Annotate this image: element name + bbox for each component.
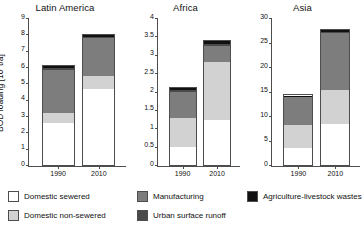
legend-column: Domestic seweredDomestic non-sewered	[8, 188, 106, 226]
y-axis-tick-label: 6	[21, 61, 25, 68]
y-axis-tick-label: 5	[264, 135, 268, 142]
y-axis-tick-label: 5	[21, 77, 25, 84]
stacked-bar[interactable]	[283, 94, 313, 166]
bar-segment-domestic-non-sewered	[43, 113, 74, 123]
panel-container: Latin America012345678919902010Africa00.…	[0, 0, 364, 186]
y-axis-tick-label: 25	[260, 37, 268, 44]
y-axis-tick-label: 2	[150, 86, 154, 93]
stacked-bar[interactable]	[320, 29, 350, 166]
panel-title: Latin America	[0, 2, 130, 13]
y-axis-tick-label: 0.5	[144, 141, 154, 148]
x-axis-label: 2010	[209, 170, 225, 177]
legend-swatch-manufacturing	[137, 191, 148, 202]
legend-item[interactable]: Manufacturing	[137, 188, 226, 205]
x-axis-label: 2010	[91, 170, 107, 177]
y-axis-tick-label: 2.5	[144, 67, 154, 74]
x-axis-tick	[217, 166, 218, 169]
panel-title: Africa	[127, 2, 244, 13]
bar-group	[272, 19, 360, 166]
plot-area: 05101520253019902010	[271, 19, 360, 167]
bar-segment-domestic-non-sewered	[83, 76, 114, 89]
y-axis-tick-label: 0	[150, 159, 154, 166]
bar-segment-manufacturing	[321, 33, 349, 90]
y-axis-tick-label: 1	[150, 122, 154, 129]
x-axis-tick	[99, 166, 100, 169]
y-axis-tick-label: 8	[21, 28, 25, 35]
bar-group	[158, 19, 240, 166]
panel-asia: Asia05101520253019902010	[241, 0, 364, 186]
bar-segment-domestic-non-sewered	[284, 125, 312, 149]
bar-segment-domestic-sewered	[170, 147, 196, 165]
x-axis-label: 1990	[50, 170, 66, 177]
y-axis-tick-label: 1	[21, 143, 25, 150]
bar-segment-domestic-non-sewered	[321, 90, 349, 124]
x-axis-tick	[183, 166, 184, 169]
bar-segment-domestic-non-sewered	[204, 62, 230, 120]
bod-loading-figure: BOD loading [106t/a] Latin America012345…	[0, 0, 364, 226]
y-axis-tick-label: 3.5	[144, 30, 154, 37]
bar-segment-domestic-sewered	[204, 120, 230, 165]
stacked-bar[interactable]	[203, 40, 231, 166]
y-axis-tick-label: 0	[264, 159, 268, 166]
bar-segment-domestic-non-sewered	[170, 118, 196, 147]
legend-label: Manufacturing	[153, 192, 204, 201]
y-axis-tick-label: 3	[21, 110, 25, 117]
y-axis-tick-label: 0	[21, 159, 25, 166]
stacked-bar[interactable]	[169, 87, 197, 166]
legend-label: Domestic non-sewered	[24, 211, 106, 220]
legend-label: Domestic sewered	[24, 192, 90, 201]
y-axis-tick-label: 10	[260, 110, 268, 117]
bar-segment-manufacturing	[284, 97, 312, 124]
x-axis-label: 1990	[175, 170, 191, 177]
x-axis-tick	[335, 166, 336, 169]
y-axis-tick-label: 3	[150, 49, 154, 56]
bar-segment-manufacturing	[204, 46, 230, 62]
x-axis-label: 2010	[328, 170, 344, 177]
legend-label: Urban surface runoff	[153, 211, 226, 220]
x-axis-label: 1990	[291, 170, 307, 177]
bar-segment-manufacturing	[83, 38, 114, 76]
bar-segment-domestic-sewered	[321, 124, 349, 165]
legend-swatch-urban-surface-runoff	[137, 210, 148, 221]
legend-item[interactable]: Domestic sewered	[8, 188, 106, 205]
bar-segment-manufacturing	[43, 70, 74, 113]
legend-item[interactable]: Urban surface runoff	[137, 207, 226, 224]
x-axis-tick	[298, 166, 299, 169]
chart-legend: Domestic seweredDomestic non-seweredManu…	[0, 188, 364, 226]
legend-item[interactable]: Domestic non-sewered	[8, 207, 106, 224]
bar-group	[29, 19, 126, 166]
y-axis-tick-label: 4	[150, 12, 154, 19]
panel-africa: Africa00.511.522.533.5419902010	[127, 0, 244, 186]
stacked-bar[interactable]	[82, 34, 115, 166]
legend-swatch-domestic-sewered	[8, 191, 19, 202]
plot-area: 00.511.522.533.5419902010	[157, 19, 240, 167]
legend-item[interactable]: Agriculture-livestock wastes	[247, 188, 362, 205]
y-axis-tick-label: 7	[21, 45, 25, 52]
y-axis-tick-label: 4	[21, 94, 25, 101]
legend-swatch-domestic-non-sewered	[8, 210, 19, 221]
legend-column: Agriculture-livestock wastes	[247, 188, 362, 207]
legend-label: Agriculture-livestock wastes	[263, 192, 362, 201]
y-axis-tick-label: 30	[260, 12, 268, 19]
y-axis-tick-label: 1.5	[144, 104, 154, 111]
panel-latin-america: Latin America012345678919902010	[0, 0, 130, 186]
legend-column: ManufacturingUrban surface runoff	[137, 188, 226, 226]
y-axis-tick-label: 20	[260, 61, 268, 68]
bar-segment-domestic-sewered	[284, 148, 312, 165]
y-axis-tick-label: 2	[21, 126, 25, 133]
bar-segment-domestic-sewered	[43, 123, 74, 165]
y-axis-tick-label: 9	[21, 12, 25, 19]
bar-segment-manufacturing	[170, 92, 196, 119]
x-axis-tick	[58, 166, 59, 169]
legend-swatch-agriculture-livestock	[247, 191, 258, 202]
stacked-bar[interactable]	[42, 65, 75, 166]
y-axis-tick-label: 15	[260, 86, 268, 93]
plot-area: 012345678919902010	[28, 19, 126, 167]
bar-segment-domestic-sewered	[83, 89, 114, 165]
